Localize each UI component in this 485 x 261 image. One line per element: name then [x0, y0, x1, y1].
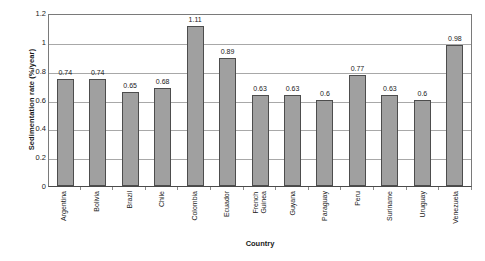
bar[interactable]: 0.6 — [316, 100, 333, 187]
bar-value-label: 0.74 — [91, 69, 105, 76]
bar-value-label: 0.63 — [253, 85, 267, 92]
bar-slot: 1.11 — [179, 15, 211, 186]
bar[interactable]: 0.65 — [122, 92, 139, 186]
bar[interactable]: 1.11 — [187, 26, 204, 186]
bar-value-label: 0.63 — [286, 85, 300, 92]
x-category-label: Venezuela — [452, 191, 460, 224]
x-label-cell: Bolivia — [81, 191, 114, 235]
x-label-cell: FrenchGuinea — [244, 191, 277, 235]
x-category-label-line: Guyana — [289, 191, 296, 216]
x-category-label: FrenchGuinea — [252, 191, 268, 214]
bar-chart: Sedimentation rate (%/year) 00.20.40.60.… — [0, 0, 485, 261]
bar-slot: 0.77 — [341, 15, 373, 186]
bar[interactable]: 0.89 — [219, 58, 236, 186]
bar[interactable]: 0.63 — [284, 95, 301, 186]
bar[interactable]: 0.63 — [252, 95, 269, 186]
x-category-label: Paraguay — [321, 191, 329, 221]
bar[interactable]: 0.74 — [89, 79, 106, 186]
bar-slot: 0.68 — [146, 15, 178, 186]
x-category-label: Brazil — [126, 191, 134, 209]
x-category-label-line: Uruguay — [419, 191, 426, 217]
bar-value-label: 1.11 — [189, 16, 202, 23]
x-category-label: Bolivia — [93, 191, 101, 212]
x-label-cell: Suriname — [374, 191, 407, 235]
x-category-label-line: Chile — [158, 191, 165, 207]
x-label-cell: Colombia — [178, 191, 211, 235]
x-category-label-line: Peru — [354, 191, 361, 206]
x-category-label: Guyana — [289, 191, 297, 216]
x-category-label-line: Colombia — [191, 191, 198, 221]
x-category-label-line: Paraguay — [321, 191, 328, 221]
bar-value-label: 0.77 — [351, 65, 365, 72]
bar[interactable]: 0.98 — [446, 45, 463, 186]
bar-slot: 0.74 — [81, 15, 113, 186]
y-tick-label: 0.6 — [20, 97, 46, 105]
x-category-label: Suriname — [386, 191, 394, 221]
bar[interactable]: 0.6 — [414, 100, 431, 187]
bar-slot: 0.89 — [211, 15, 243, 186]
x-category-label-line: Ecuador — [223, 191, 230, 217]
y-tick-label: 0.8 — [20, 68, 46, 76]
x-label-cell: Ecuador — [211, 191, 244, 235]
bar-slot: 0.65 — [114, 15, 146, 186]
bar[interactable]: 0.63 — [381, 95, 398, 186]
bar-slot: 0.63 — [276, 15, 308, 186]
bar[interactable]: 0.68 — [154, 88, 171, 186]
bar-slot: 0.63 — [244, 15, 276, 186]
x-category-label: Uruguay — [419, 191, 427, 217]
x-label-cell: Paraguay — [309, 191, 342, 235]
y-tick-label: 1.2 — [20, 10, 46, 18]
bar-value-label: 0.98 — [448, 35, 462, 42]
y-tick-label: 0.2 — [20, 154, 46, 162]
bar-slot: 0.98 — [439, 15, 471, 186]
bar-slot: 0.6 — [406, 15, 438, 186]
y-axis-tick-labels: 00.20.40.60.811.2 — [20, 14, 46, 187]
x-category-label-line: Argentina — [60, 191, 67, 221]
x-label-cell: Uruguay — [407, 191, 440, 235]
x-label-cell: Guyana — [276, 191, 309, 235]
bar-value-label: 0.65 — [123, 82, 137, 89]
bar-slot: 0.63 — [374, 15, 406, 186]
x-label-cell: Peru — [341, 191, 374, 235]
x-axis-category-labels: ArgentinaBoliviaBrazilChileColombiaEcuad… — [48, 191, 472, 235]
bar-value-label: 0.63 — [383, 85, 397, 92]
bar-value-label: 0.6 — [320, 90, 330, 97]
x-label-cell: Brazil — [113, 191, 146, 235]
y-tick-label: 0 — [20, 183, 46, 191]
bar[interactable]: 0.74 — [57, 79, 74, 186]
x-label-cell: Venezuela — [439, 191, 472, 235]
x-category-label: Ecuador — [223, 191, 231, 217]
bar-value-label: 0.6 — [418, 90, 428, 97]
x-category-label-line: Bolivia — [93, 191, 100, 212]
bar[interactable]: 0.77 — [349, 75, 366, 186]
x-category-label: Chile — [158, 191, 166, 207]
x-category-label-line: Venezuela — [452, 191, 459, 224]
x-category-label-line: Brazil — [126, 191, 133, 209]
bars-layer: 0.740.740.650.681.110.890.630.630.60.770… — [49, 15, 471, 186]
x-category-label-line: French — [252, 192, 259, 214]
y-tick-label: 1 — [20, 39, 46, 47]
bar-value-label: 0.74 — [58, 69, 72, 76]
x-category-label: Argentina — [60, 191, 68, 221]
bar-value-label: 0.89 — [221, 48, 235, 55]
x-category-label: Peru — [354, 191, 362, 206]
x-axis-title: Country — [48, 239, 472, 248]
x-category-label-line: Suriname — [386, 191, 393, 221]
x-category-label-line: Guinea — [260, 191, 268, 214]
y-tick-label: 0.4 — [20, 126, 46, 134]
x-label-cell: Argentina — [48, 191, 81, 235]
x-category-label: Colombia — [191, 191, 199, 221]
bar-slot: 0.74 — [49, 15, 81, 186]
bar-slot: 0.6 — [309, 15, 341, 186]
plot-area: 0.740.740.650.681.110.890.630.630.60.770… — [48, 14, 472, 187]
bar-value-label: 0.68 — [156, 78, 170, 85]
x-label-cell: Chile — [146, 191, 179, 235]
